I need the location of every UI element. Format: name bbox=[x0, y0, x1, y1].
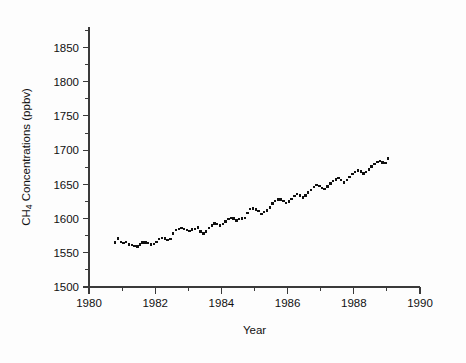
data-point bbox=[147, 242, 149, 244]
data-point bbox=[337, 177, 339, 179]
x-axis-title: Year bbox=[243, 324, 266, 336]
axes bbox=[89, 27, 420, 287]
data-point bbox=[379, 160, 381, 162]
data-point bbox=[180, 227, 182, 229]
data-point bbox=[178, 228, 180, 230]
x-tick-label: 1986 bbox=[275, 297, 301, 309]
y-tick-label: 1550 bbox=[53, 247, 79, 259]
data-point bbox=[172, 232, 174, 234]
data-point bbox=[224, 220, 226, 222]
data-point bbox=[381, 161, 383, 163]
data-point bbox=[384, 162, 386, 164]
data-point bbox=[302, 196, 304, 198]
data-point bbox=[323, 188, 325, 190]
x-tick-label: 1984 bbox=[209, 297, 235, 309]
data-point bbox=[144, 241, 146, 243]
x-tick-label: 1980 bbox=[76, 297, 102, 309]
data-point bbox=[197, 226, 199, 228]
data-point bbox=[230, 217, 232, 219]
data-point bbox=[246, 212, 248, 214]
data-point bbox=[293, 195, 295, 197]
data-point bbox=[335, 178, 337, 180]
data-point bbox=[368, 168, 370, 170]
data-point bbox=[321, 187, 323, 189]
data-point bbox=[235, 219, 237, 221]
data-point bbox=[199, 230, 201, 232]
data-point bbox=[310, 189, 312, 191]
data-point bbox=[186, 229, 188, 231]
data-point bbox=[326, 185, 328, 187]
data-point bbox=[274, 200, 276, 202]
data-point bbox=[150, 243, 152, 245]
chart-canvas: 1500155016001650170017501800185019801982… bbox=[0, 0, 466, 363]
data-point bbox=[296, 193, 298, 195]
data-point bbox=[279, 198, 281, 200]
data-point bbox=[188, 230, 190, 232]
data-point bbox=[155, 241, 157, 243]
data-point bbox=[191, 228, 193, 230]
data-point bbox=[340, 179, 342, 181]
ch4-scatter-figure: 1500155016001650170017501800185019801982… bbox=[0, 0, 466, 363]
data-point bbox=[219, 224, 221, 226]
data-point bbox=[238, 218, 240, 220]
data-point bbox=[194, 228, 196, 230]
data-point bbox=[351, 173, 353, 175]
data-point bbox=[158, 238, 160, 240]
data-point bbox=[357, 169, 359, 171]
data-point bbox=[343, 181, 345, 183]
x-tick-label: 1990 bbox=[407, 297, 433, 309]
data-point bbox=[244, 217, 246, 219]
data-point bbox=[360, 170, 362, 172]
data-point bbox=[290, 198, 292, 200]
data-point bbox=[222, 223, 224, 225]
data-point bbox=[153, 243, 155, 245]
data-point bbox=[136, 245, 138, 247]
data-point bbox=[125, 241, 127, 243]
data-points bbox=[114, 157, 389, 248]
data-point bbox=[211, 224, 213, 226]
data-point bbox=[260, 213, 262, 215]
y-tick-label: 1500 bbox=[53, 281, 79, 293]
data-point bbox=[120, 241, 122, 243]
data-point bbox=[263, 211, 265, 213]
data-point bbox=[365, 171, 367, 173]
data-point bbox=[213, 222, 215, 224]
data-point bbox=[161, 237, 163, 239]
data-point bbox=[329, 182, 331, 184]
data-point bbox=[288, 200, 290, 202]
data-point bbox=[307, 191, 309, 193]
data-point bbox=[232, 217, 234, 219]
data-point bbox=[128, 243, 130, 245]
data-point bbox=[348, 176, 350, 178]
data-point bbox=[299, 194, 301, 196]
data-point bbox=[266, 209, 268, 211]
data-point bbox=[346, 179, 348, 181]
data-point bbox=[373, 163, 375, 165]
data-point bbox=[285, 202, 287, 204]
data-point bbox=[354, 171, 356, 173]
data-point bbox=[208, 227, 210, 229]
y-tick-label: 1750 bbox=[53, 110, 79, 122]
data-point bbox=[175, 229, 177, 231]
data-point bbox=[205, 230, 207, 232]
data-point bbox=[166, 239, 168, 241]
data-point bbox=[141, 241, 143, 243]
data-point bbox=[332, 180, 334, 182]
data-point bbox=[249, 208, 251, 210]
data-point bbox=[315, 184, 317, 186]
data-point bbox=[318, 185, 320, 187]
data-point bbox=[362, 172, 364, 174]
data-point bbox=[252, 207, 254, 209]
data-point bbox=[122, 242, 124, 244]
y-tick-label: 1700 bbox=[53, 144, 79, 156]
data-point bbox=[227, 218, 229, 220]
data-point bbox=[313, 186, 315, 188]
data-point bbox=[257, 210, 259, 212]
data-point bbox=[202, 232, 204, 234]
y-axis-title: CH4 Concentrations (ppbv) bbox=[20, 88, 34, 226]
x-tick-label: 1982 bbox=[142, 297, 168, 309]
data-point bbox=[370, 165, 372, 167]
data-point bbox=[241, 217, 243, 219]
data-point bbox=[216, 223, 218, 225]
data-point bbox=[131, 244, 133, 246]
